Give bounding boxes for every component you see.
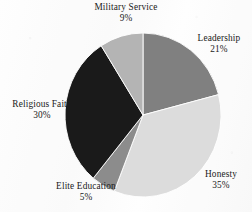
slice-label-honesty-value: 35% — [190, 180, 252, 191]
slice-label-religious-faith-value: 30% — [2, 110, 82, 121]
slice-label-elite-education-name: Elite Education — [38, 181, 134, 192]
slice-label-leadership-value: 21% — [186, 44, 252, 55]
slice-label-religious-faith: Religious Faith 30% — [2, 99, 82, 121]
pie-chart-figure: Military Service 9% Leadership 21% Hones… — [0, 0, 252, 212]
slice-label-honesty-name: Honesty — [190, 169, 252, 180]
slice-label-military-service-value: 9% — [72, 13, 180, 24]
slice-label-religious-faith-name: Religious Faith — [2, 99, 82, 110]
slice-label-leadership: Leadership 21% — [186, 33, 252, 55]
slice-label-elite-education: Elite Education 5% — [38, 181, 134, 203]
slice-label-elite-education-value: 5% — [38, 192, 134, 203]
slice-label-military-service: Military Service 9% — [72, 2, 180, 24]
slice-label-honesty: Honesty 35% — [190, 169, 252, 191]
slice-label-leadership-name: Leadership — [186, 33, 252, 44]
slice-label-military-service-name: Military Service — [72, 2, 180, 13]
